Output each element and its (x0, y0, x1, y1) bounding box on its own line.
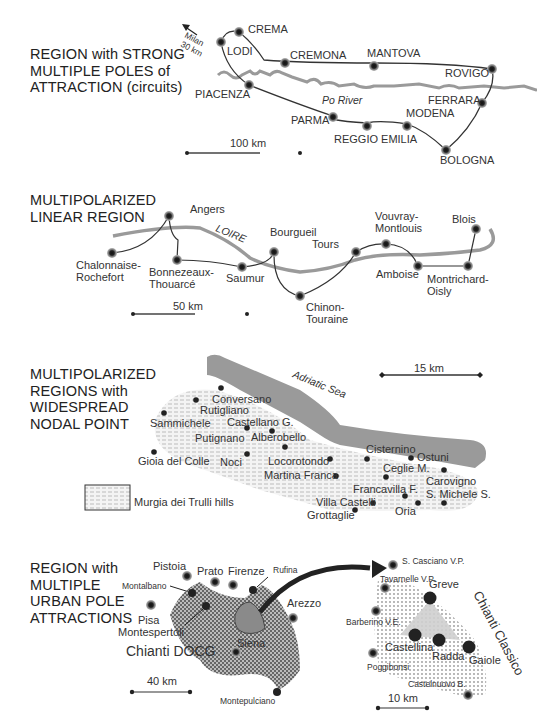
svg-text:Bonnezeaux-: Bonnezeaux- (149, 266, 214, 278)
chianti-docg-label: Chianti DOCG (126, 643, 215, 659)
svg-text:REGGIO EMILIA: REGGIO EMILIA (334, 133, 418, 145)
svg-text:S. Casciano V.P.: S. Casciano V.P. (402, 556, 464, 566)
svg-text:Locorotondo: Locorotondo (268, 455, 329, 467)
svg-text:MODENA: MODENA (406, 107, 455, 119)
svg-text:BOLOGNA: BOLOGNA (440, 154, 495, 166)
svg-text:50 km: 50 km (173, 300, 203, 312)
svg-text:LODI: LODI (227, 45, 253, 57)
svg-text:Chinon-: Chinon- (306, 301, 345, 313)
linear-map: Angers Chalonnaise- Rochefort Bonnezeaux… (0, 180, 537, 330)
svg-text:CREMA: CREMA (248, 23, 288, 35)
svg-text:Touraine: Touraine (306, 313, 348, 325)
svg-text:Montrichard-: Montrichard- (427, 273, 489, 285)
svg-text:40 km: 40 km (147, 675, 177, 687)
svg-text:ROVIGO: ROVIGO (445, 67, 489, 79)
svg-text:PARMA: PARMA (291, 114, 330, 126)
svg-text:Carovigno: Carovigno (426, 475, 476, 487)
svg-text:Arezzo: Arezzo (287, 597, 321, 609)
svg-text:Ceglie M.: Ceglie M. (383, 462, 429, 474)
scale-bar-right: 10 km (376, 692, 429, 710)
svg-text:Saumur: Saumur (226, 272, 265, 284)
svg-text:Grottaglie: Grottaglie (307, 509, 355, 521)
svg-text:Amboise: Amboise (376, 268, 419, 280)
svg-text:Francavilla F.: Francavilla F. (353, 483, 418, 495)
svg-text:Pisa: Pisa (138, 614, 160, 626)
svg-text:Putignano: Putignano (195, 432, 245, 444)
river-label: LOIRE (214, 222, 249, 245)
svg-text:Blois: Blois (452, 213, 476, 225)
panel-urban: REGION with MULTIPLE URBAN POLE ATTRACTI… (0, 540, 537, 727)
svg-text:Castellina: Castellina (385, 641, 434, 653)
legend: Murgia dei Trulli hills (85, 485, 234, 510)
river-label: Po River (322, 94, 363, 106)
svg-text:PIACENZA: PIACENZA (195, 88, 251, 100)
svg-text:10 km: 10 km (388, 692, 418, 704)
panel-linear: MULTIPOLARIZED LINEAR REGION Angers Ch (0, 180, 537, 330)
chianti-docg-area (170, 582, 300, 690)
svg-text:Prato: Prato (197, 565, 223, 577)
svg-text:Greve: Greve (429, 578, 459, 590)
panel-circuits: REGION with STRONG MULTIPLE POLES of ATT… (0, 0, 537, 170)
svg-text:Bourgueil: Bourgueil (270, 226, 316, 238)
svg-text:Rufina: Rufina (273, 565, 298, 575)
svg-text:Cisternino: Cisternino (366, 443, 416, 455)
svg-text:Villa Castelli: Villa Castelli (316, 496, 376, 508)
svg-text:Gioia del Colle: Gioia del Colle (138, 455, 210, 467)
svg-text:Barberino V.E.: Barberino V.E. (346, 617, 401, 627)
svg-text:Montepulciano: Montepulciano (220, 696, 276, 706)
svg-text:Rutigliano: Rutigliano (200, 404, 249, 416)
svg-text:Martina Franca: Martina Franca (264, 469, 339, 481)
svg-text:MANTOVA: MANTOVA (367, 47, 421, 59)
svg-text:Tavarnelle V.P.: Tavarnelle V.P. (380, 574, 435, 584)
svg-text:Oria: Oria (395, 505, 417, 517)
svg-text:Montalbano: Montalbano (122, 581, 167, 591)
svg-text:Chalonnaise-: Chalonnaise- (76, 259, 141, 271)
legend-label: Murgia dei Trulli hills (134, 496, 234, 508)
scale-bar-left: 40 km (130, 675, 192, 694)
svg-text:Firenze: Firenze (228, 565, 265, 577)
svg-text:Tours: Tours (312, 238, 339, 250)
svg-text:S. Michele S.: S. Michele S. (426, 488, 491, 500)
svg-text:Sammichele: Sammichele (150, 417, 211, 429)
svg-text:15 km: 15 km (414, 362, 444, 374)
svg-text:100 km: 100 km (230, 137, 266, 149)
svg-text:Castellano G.: Castellano G. (227, 416, 294, 428)
circuits-map: Milan 30 km CREMA LODI CREMONA MANTOVA R… (0, 0, 537, 170)
svg-text:Montlouis: Montlouis (375, 222, 423, 234)
svg-text:FERRARA: FERRARA (428, 94, 481, 106)
svg-text:Thouarcé: Thouarcé (149, 278, 195, 290)
svg-text:Angers: Angers (190, 203, 225, 215)
scale-bar: 15 km (379, 362, 483, 378)
scale-bar: 100 km (185, 137, 302, 155)
svg-text:Pistoia: Pistoia (153, 560, 187, 572)
svg-text:Vouvray-: Vouvray- (375, 210, 419, 222)
svg-text:Alberobello: Alberobello (251, 431, 306, 443)
svg-text:Gaiole: Gaiole (469, 654, 501, 666)
svg-text:Castelnuovo B.: Castelnuovo B. (408, 679, 466, 689)
svg-text:Oisly: Oisly (427, 285, 452, 297)
svg-text:Radda: Radda (432, 650, 465, 662)
nodal-map: Adriatic Sea 15 km Conversano Rutigliano… (0, 330, 537, 530)
panel-nodal: MULTIPOLARIZED REGIONS with WIDESPREAD N… (0, 330, 537, 530)
svg-text:Montespertoli: Montespertoli (118, 626, 184, 638)
svg-text:Siena: Siena (237, 637, 266, 649)
svg-text:Poggibonsi: Poggibonsi (367, 662, 409, 672)
urban-map: Pistoia Prato Firenze Rufina Montalbano … (0, 540, 537, 727)
svg-text:Noci: Noci (220, 456, 242, 468)
scale-bar: 50 km (131, 300, 249, 316)
svg-text:Rochefort: Rochefort (76, 271, 124, 283)
svg-text:CREMONA: CREMONA (290, 49, 347, 61)
